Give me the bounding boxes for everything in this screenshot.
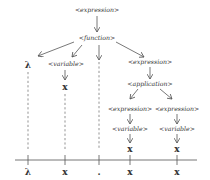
function-node: <function>: [79, 34, 115, 42]
baseline-token-dot: .: [97, 167, 100, 177]
baseline-token-x1: x: [62, 167, 68, 177]
parse-tree-diagram: <expression> <function> λ <variable> x <…: [0, 0, 210, 180]
fn-variable-node: <variable>: [48, 60, 84, 67]
baseline-token-x3: x: [174, 167, 180, 177]
baseline-token-x2: x: [127, 167, 133, 177]
app-left-variable-node: <variable>: [112, 125, 148, 132]
application-node: <application>: [127, 80, 172, 88]
app-right-variable-node: <variable>: [159, 125, 195, 132]
arrow-function-to-variable: [72, 45, 82, 57]
arrow-function-to-lambda: [38, 42, 74, 56]
app-left-x-node: x: [127, 144, 133, 154]
app-left-expression-node: <expression>: [108, 105, 152, 113]
body-expression-node: <expression>: [128, 58, 172, 66]
lambda-node: λ: [25, 60, 31, 70]
root-expression-node: <expression>: [75, 6, 119, 14]
arrow-application-to-right: [160, 89, 172, 99]
app-right-expression-node: <expression>: [155, 105, 199, 113]
fn-var-x-node: x: [62, 82, 68, 92]
arrow-function-to-expression: [116, 42, 144, 57]
arrow-application-to-left: [130, 89, 138, 99]
app-right-x-node: x: [174, 144, 180, 154]
baseline-token-lambda: λ: [25, 167, 31, 177]
